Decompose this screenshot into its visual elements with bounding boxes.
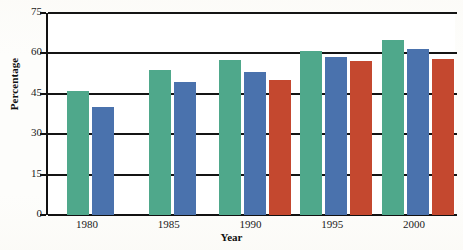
x-axis-title: Year xyxy=(0,231,463,243)
gridline-75 xyxy=(48,12,457,14)
bar-1995-green xyxy=(300,51,322,215)
bar-1990-green xyxy=(219,60,241,215)
bar-1995-blue xyxy=(325,57,347,215)
y-axis-tick-group: 01530456075 xyxy=(0,13,42,215)
y-tick-label-30: 30 xyxy=(2,126,42,138)
bar-chart-figure: Percentage 01530456075 Year 198019851990… xyxy=(0,0,463,250)
bar-2000-red xyxy=(432,59,454,215)
y-tick-label-75: 75 xyxy=(2,5,42,17)
bar-1985-green xyxy=(149,70,171,215)
y-tick-label-15: 15 xyxy=(2,167,42,179)
bar-1980-blue xyxy=(92,107,114,215)
x-tick-label-1995: 1995 xyxy=(297,218,367,230)
bar-1995-red xyxy=(350,61,372,215)
y-tick-label-0: 0 xyxy=(2,207,42,219)
y-tick-label-60: 60 xyxy=(2,45,42,57)
x-tick-label-2000: 2000 xyxy=(379,218,449,230)
bar-1985-blue xyxy=(174,82,196,215)
plot-area xyxy=(46,13,455,215)
bar-1990-blue xyxy=(244,72,266,215)
bar-2000-green xyxy=(382,40,404,215)
bar-2000-blue xyxy=(407,49,429,215)
bar-1980-green xyxy=(67,91,89,215)
bar-1990-red xyxy=(269,80,291,215)
x-tick-label-1990: 1990 xyxy=(216,218,286,230)
x-tick-label-1980: 1980 xyxy=(52,218,122,230)
y-tick-label-45: 45 xyxy=(2,86,42,98)
x-tick-label-1985: 1985 xyxy=(134,218,204,230)
